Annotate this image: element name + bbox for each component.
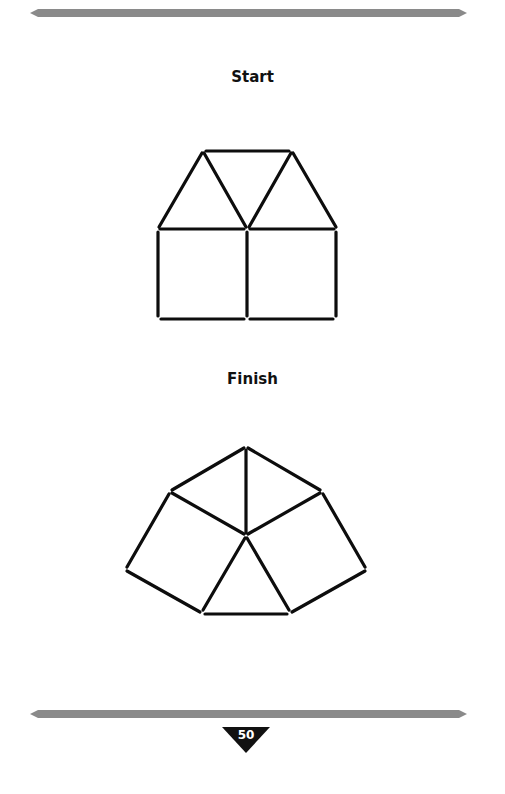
start-figure [0, 0, 505, 794]
start-heading: Start [0, 68, 505, 86]
page-number: 50 [222, 728, 270, 742]
top-decorative-rule [30, 8, 467, 18]
page-number-badge: 50 [222, 727, 270, 755]
finish-heading: Finish [0, 370, 505, 388]
finish-figure [0, 0, 505, 794]
bottom-decorative-rule [30, 709, 467, 719]
